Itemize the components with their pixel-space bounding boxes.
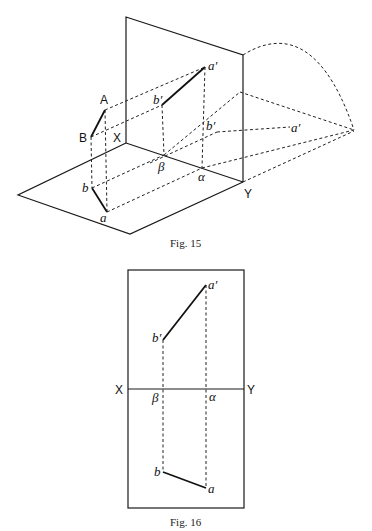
elevation-a-b — [162, 67, 205, 105]
label-a-prime: a′ — [208, 277, 218, 292]
rotation-arc — [243, 43, 354, 130]
label-Y: Y — [244, 187, 252, 201]
label-B: B — [79, 131, 87, 145]
label-a: a — [208, 481, 215, 496]
projector — [107, 168, 202, 212]
projector — [105, 110, 107, 212]
label-X: X — [115, 383, 123, 397]
vertical-plane — [126, 17, 243, 182]
label-beta: β — [157, 159, 165, 174]
label-A: A — [100, 93, 108, 107]
aux-line — [202, 130, 354, 168]
figure-16: X Y b′ a′ β α b a Fig. 16 — [115, 270, 255, 528]
label-b: b — [82, 180, 89, 195]
label-alpha: α — [198, 169, 206, 184]
plan-ab — [92, 188, 107, 212]
elevation-a-b — [163, 285, 206, 340]
caption-fig-16: Fig. 16 — [170, 516, 202, 528]
aux-line — [217, 127, 290, 132]
label-a-prime: a′ — [208, 58, 218, 73]
aux-line — [164, 92, 240, 155]
label-a: a — [100, 210, 107, 225]
line-AB — [91, 110, 105, 137]
label-alpha: α — [209, 389, 217, 404]
projector — [162, 105, 164, 155]
label-b-prime-rotated: b′ — [206, 118, 216, 133]
label-b-prime: b′ — [153, 92, 163, 107]
caption-fig-15: Fig. 15 — [170, 237, 202, 249]
label-Y: Y — [247, 383, 255, 397]
horizontal-plane — [18, 143, 243, 234]
projector — [92, 155, 164, 188]
label-b: b — [154, 464, 161, 479]
label-X: X — [113, 131, 121, 145]
label-a-prime-rotated: a′ — [291, 120, 301, 135]
projector — [91, 137, 92, 188]
figure-15: A B X Y b a b′ a′ β α b′ a′ Fig. 15 — [18, 17, 354, 249]
label-b-prime: b′ — [152, 330, 162, 345]
aux-line — [243, 131, 354, 182]
label-beta: β — [151, 390, 159, 405]
projector — [202, 67, 205, 168]
diagram-canvas: A B X Y b a b′ a′ β α b′ a′ Fig. 15 X Y … — [0, 0, 372, 531]
plan-ab — [163, 472, 206, 488]
